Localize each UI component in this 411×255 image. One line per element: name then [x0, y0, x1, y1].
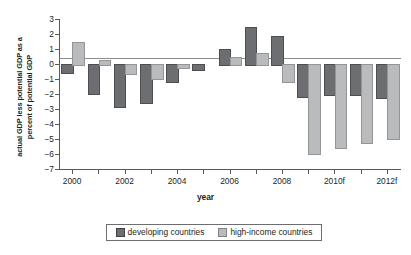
y-axis-tick-label: −7	[16, 165, 54, 173]
legend-item-developing[interactable]: developing countries	[116, 228, 205, 237]
x-axis-tick	[72, 170, 73, 174]
bar-high-income-2007	[256, 53, 269, 66]
y-axis-labels: 3210−1−2−3−4−5−6−7	[8, 0, 54, 255]
x-axis-tick	[308, 170, 309, 174]
legend-item-high-income[interactable]: high-income countries	[218, 228, 312, 237]
y-axis-tick-label: 1	[16, 45, 54, 53]
y-axis-tick-label: 2	[16, 30, 54, 38]
x-axis-tick-label: 2002	[105, 176, 145, 186]
x-axis-tick-label: 2012f	[367, 176, 407, 186]
bar-developing-2008	[271, 36, 284, 67]
x-axis-tick	[125, 170, 126, 174]
bar-high-income-2004	[177, 64, 190, 69]
chart-figure: actual GDP less potential GDP as a perce…	[0, 0, 411, 255]
legend-swatch-high-income-icon	[218, 228, 227, 237]
x-axis-tick	[230, 170, 231, 174]
bar-developing-2001	[88, 64, 101, 95]
y-axis-tick-label: −2	[16, 90, 54, 98]
x-axis-tick	[98, 170, 99, 174]
x-axis-tick	[177, 170, 178, 174]
bar-high-income-2006	[230, 57, 243, 66]
bar-high-income-2000	[72, 42, 85, 67]
bar-developing-2005	[192, 64, 205, 71]
y-axis-tick-label: 3	[16, 15, 54, 23]
x-axis-tick	[203, 170, 204, 174]
bar-high-income-2009	[308, 64, 321, 155]
y-axis-tick-label: 0	[16, 60, 54, 68]
x-axis-tick	[282, 170, 283, 174]
x-axis-tick-label: 2000	[52, 176, 92, 186]
x-axis-tick-label: 2006	[210, 176, 250, 186]
legend-label-developing: developing countries	[128, 228, 205, 237]
x-axis-tick-label: 2004	[157, 176, 197, 186]
legend-label-high-income: high-income countries	[230, 228, 312, 237]
bar-high-income-2001	[99, 60, 112, 66]
legend-swatch-developing-icon	[116, 228, 125, 237]
x-axis-tick	[334, 170, 335, 174]
x-axis-tick	[361, 170, 362, 174]
x-axis-tick-label: 2008	[262, 176, 302, 186]
y-axis-tick-label: −1	[16, 75, 54, 83]
plot-area	[59, 19, 400, 169]
y-axis-tick-label: −5	[16, 135, 54, 143]
bar-high-income-2011f	[361, 64, 374, 144]
bar-high-income-2003	[151, 64, 164, 80]
x-axis-tick-label: 2010f	[314, 176, 354, 186]
bar-high-income-2008	[282, 64, 295, 83]
y-axis-tick-label: −4	[16, 120, 54, 128]
x-axis-tick	[256, 170, 257, 174]
x-axis-title: year	[0, 192, 411, 202]
chart-legend: developing countries high-income countri…	[106, 224, 322, 241]
y-axis-tick-label: −3	[16, 105, 54, 113]
bar-high-income-2010f	[335, 64, 348, 149]
bar-high-income-2012f	[387, 64, 400, 140]
y-axis-tick-label: −6	[16, 150, 54, 158]
x-axis-tick	[387, 170, 388, 174]
bar-high-income-2002	[125, 64, 138, 75]
x-axis-tick	[151, 170, 152, 174]
